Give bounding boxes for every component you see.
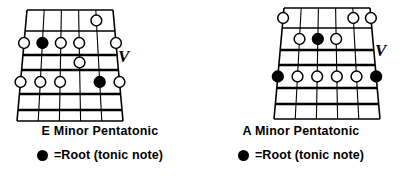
scale-note-marker: [351, 71, 362, 82]
scale-note-marker: [278, 13, 289, 24]
scale-note-marker: [55, 77, 66, 88]
root-note-marker: [371, 71, 382, 82]
legend-root: =Root (tonic note): [201, 148, 401, 162]
position-marker-label: V: [375, 41, 388, 60]
legend-label: =Root (tonic note): [54, 148, 163, 162]
scale-note-marker: [331, 34, 342, 45]
scale-note-marker: [74, 57, 85, 68]
scale-note-marker: [55, 38, 66, 49]
scale-note-marker: [15, 77, 26, 88]
scale-note-marker: [312, 71, 323, 82]
fretboard-notes-e: [15, 15, 125, 87]
root-note-marker: [272, 71, 283, 82]
position-marker-label: V: [118, 47, 131, 66]
scale-note-marker: [331, 71, 342, 82]
scale-note-marker: [35, 77, 46, 88]
scale-note-marker: [292, 71, 303, 82]
fretboard-grid-a: [274, 8, 380, 119]
root-note-marker: [37, 38, 48, 49]
string-line: [370, 8, 380, 119]
fretboard-graphic: V: [0, 0, 200, 124]
string-line: [295, 8, 301, 119]
legend-label: =Root (tonic note): [255, 148, 364, 162]
fretboard-svg: V: [0, 0, 200, 124]
scale-note-marker: [348, 13, 359, 24]
string-line: [274, 8, 284, 119]
fretboard-diagram-e-minor: V E Minor Pentatonic =Root (tonic note): [0, 0, 200, 176]
scale-note-marker: [91, 15, 102, 26]
scale-note-marker: [19, 38, 30, 49]
filled-circle-icon: [37, 150, 48, 161]
root-note-marker: [94, 77, 105, 88]
fretboard-grid-e: [17, 10, 123, 121]
fretboard-notes-a: [272, 13, 381, 82]
string-line: [59, 10, 61, 121]
string-line: [38, 10, 44, 121]
scale-note-marker: [114, 77, 125, 88]
fretboard-diagram-a-minor: V A Minor Pentatonic =Root (tonic note): [201, 0, 401, 176]
root-note-marker: [312, 34, 323, 45]
scale-name-label: A Minor Pentatonic: [201, 124, 401, 138]
string-line: [96, 10, 102, 121]
filled-circle-icon: [238, 150, 249, 161]
string-line: [336, 8, 338, 119]
string-line: [17, 10, 27, 121]
scale-note-marker: [294, 34, 305, 45]
scale-note-marker: [74, 38, 85, 49]
scale-note-marker: [366, 13, 377, 24]
legend-root: =Root (tonic note): [0, 148, 200, 162]
scale-name-label: E Minor Pentatonic: [0, 124, 200, 138]
string-line: [316, 8, 318, 119]
string-line: [353, 8, 359, 119]
fretboard-graphic: V: [201, 0, 401, 124]
fretboard-svg: V: [201, 0, 401, 124]
